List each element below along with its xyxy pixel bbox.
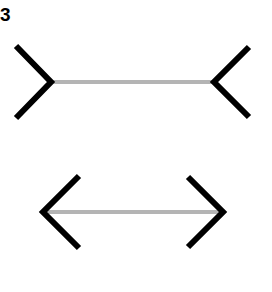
top-right-fin-icon	[214, 47, 249, 117]
muller-lyer-figure	[0, 0, 272, 292]
top-left-fin-icon	[16, 46, 51, 118]
bottom-line-group	[43, 176, 223, 248]
top-line-group	[16, 46, 249, 118]
